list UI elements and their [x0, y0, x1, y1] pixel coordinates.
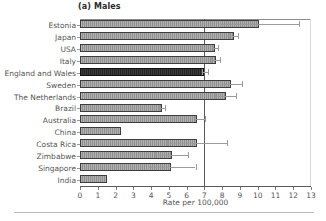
bar-row: Australia [80, 114, 311, 126]
error-bar-cap [220, 81, 221, 87]
x-axis-tick [204, 187, 205, 190]
error-bar [211, 60, 220, 61]
x-axis-tick [116, 187, 117, 190]
x-axis-tick [258, 187, 259, 190]
category-label: USA [60, 44, 76, 53]
error-bar [148, 167, 196, 168]
error-bar-cap [195, 116, 196, 122]
error-bar-cap [205, 116, 206, 122]
error-bar-cap [299, 21, 300, 27]
category-label: Zimbabwe [37, 152, 76, 161]
x-axis-tick [293, 187, 294, 190]
chart-title: (a) Males [78, 2, 121, 11]
x-axis-tick [240, 187, 241, 190]
bar [80, 32, 234, 40]
bar [80, 127, 121, 135]
category-label: Sweden [46, 80, 76, 89]
error-bar [167, 143, 227, 144]
error-bar-cap [229, 33, 230, 39]
error-bar-cap [188, 152, 189, 158]
bottom-rule [14, 212, 314, 213]
error-bar-cap [213, 45, 214, 51]
bar [80, 92, 226, 100]
category-label: Singapore [38, 164, 76, 173]
category-label: England and Wales [5, 68, 76, 77]
x-axis-tick [311, 187, 312, 190]
error-bar [195, 119, 206, 120]
error-bar-cap [211, 57, 212, 63]
error-bar [155, 155, 189, 156]
error-bar-cap [159, 105, 160, 111]
error-bar-cap [218, 45, 219, 51]
bar [80, 104, 162, 112]
x-axis-tick [187, 187, 188, 190]
bar-row: Japan [80, 31, 311, 43]
bar-row: Brazil [80, 103, 311, 115]
x-axis-tick [80, 187, 81, 190]
x-axis-title: Rate per 100,000 [80, 198, 311, 207]
category-label: Estonia [48, 20, 76, 29]
error-bar-cap [220, 21, 221, 27]
error-bar-cap [148, 164, 149, 170]
error-bar [220, 24, 298, 25]
x-axis-tick [275, 187, 276, 190]
error-bar-cap [236, 93, 237, 99]
error-bar-cap [167, 140, 168, 146]
bar-row: Sweden [80, 79, 311, 91]
bar [80, 44, 215, 52]
error-bar [220, 84, 241, 85]
bar [80, 115, 197, 123]
category-label: India [58, 176, 76, 185]
bar [80, 68, 204, 76]
bar-row: China [80, 126, 311, 138]
bar-row: Italy [80, 55, 311, 67]
category-label: Brazil [55, 104, 76, 113]
category-label: Japan [55, 32, 76, 41]
bar-row: Estonia [80, 19, 311, 31]
error-bar-cap [165, 105, 166, 111]
bar-row: USA [80, 43, 311, 55]
error-bar-cap [202, 69, 203, 75]
bar [80, 175, 107, 183]
error-bar-cap [215, 93, 216, 99]
x-axis-tick [169, 187, 170, 190]
error-bar-cap [208, 69, 209, 75]
bar-row: Costa Rica [80, 138, 311, 150]
bar [80, 80, 231, 88]
x-axis-tick [98, 187, 99, 190]
category-label: China [55, 128, 76, 137]
category-label: Australia [43, 116, 76, 125]
bar [80, 56, 216, 64]
category-label: Costa Rica [36, 140, 76, 149]
bar-row: Zimbabwe [80, 150, 311, 162]
error-bar [215, 96, 236, 97]
x-axis-tick [151, 187, 152, 190]
category-label: The Netherlands [14, 92, 76, 101]
error-bar-cap [155, 152, 156, 158]
error-bar-cap [196, 164, 197, 170]
x-axis: 012345678910111213 [80, 186, 311, 187]
x-axis-tick [133, 187, 134, 190]
plot-area: EstoniaJapanUSAItalyEngland and WalesSwe… [80, 19, 311, 186]
chart-figure: (a) Males EstoniaJapanUSAItalyEngland an… [0, 0, 326, 221]
error-bar-cap [238, 33, 239, 39]
bar-row: India [80, 174, 311, 186]
error-bar-cap [227, 140, 228, 146]
x-axis-tick [222, 187, 223, 190]
error-bar [229, 36, 238, 37]
category-label: Italy [60, 56, 76, 65]
bar-row: England and Wales [80, 67, 311, 79]
error-bar-cap [242, 81, 243, 87]
bar-row: Singapore [80, 162, 311, 174]
bar-row: The Netherlands [80, 91, 311, 103]
error-bar-cap [220, 57, 221, 63]
